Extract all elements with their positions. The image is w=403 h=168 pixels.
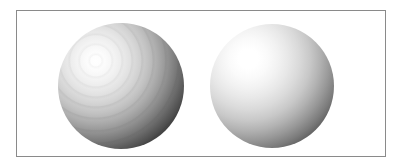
shaded-sphere-right: [210, 24, 334, 148]
figure-border-frame: [16, 10, 386, 157]
shaded-sphere-left: [58, 23, 184, 149]
figure-canvas: [0, 0, 403, 168]
